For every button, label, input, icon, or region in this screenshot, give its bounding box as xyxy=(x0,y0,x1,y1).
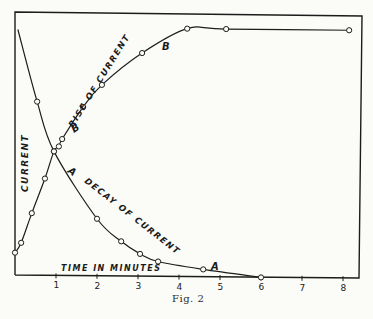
rise-b-upper: B xyxy=(162,41,171,52)
x-tick-label: 5 xyxy=(218,282,224,292)
data-point-marker xyxy=(29,211,34,216)
x-tick-label: 8 xyxy=(341,283,347,293)
x-tick-label: 4 xyxy=(177,282,183,292)
data-point-marker xyxy=(201,267,206,272)
data-point-marker xyxy=(258,275,263,280)
data-point-marker xyxy=(140,50,145,55)
data-point-marker xyxy=(224,26,229,31)
x-tick-label: 7 xyxy=(300,283,306,293)
rise-label: RISE OF CURRENT xyxy=(66,32,132,129)
data-point-marker xyxy=(12,250,17,255)
data-point-marker xyxy=(119,239,124,244)
x-tick-label: 1 xyxy=(54,280,60,290)
data-point-marker xyxy=(56,144,61,149)
decay-a-lower: A xyxy=(210,261,220,272)
x-axis-label: TIME IN MINUTES xyxy=(61,264,161,273)
y-axis-label: CURRENT xyxy=(20,134,30,192)
plot-frame xyxy=(15,12,362,278)
x-tick-label: 6 xyxy=(259,282,265,292)
rise-markers xyxy=(12,26,351,255)
data-point-marker xyxy=(94,216,99,221)
figure: 12345678 RISE OF CURRENT B B CURRENT A D… xyxy=(0,0,373,319)
data-point-marker xyxy=(19,240,24,245)
x-tick-label: 2 xyxy=(95,281,101,291)
figure-caption: Fig. 2 xyxy=(172,293,204,304)
data-point-marker xyxy=(137,251,142,256)
decay-a-upper: A xyxy=(65,164,80,179)
data-point-marker xyxy=(51,149,56,154)
x-tick-label: 3 xyxy=(136,281,142,291)
data-point-marker xyxy=(60,136,65,141)
data-point-marker xyxy=(35,99,40,104)
data-point-marker xyxy=(185,26,190,31)
data-point-marker xyxy=(42,176,47,181)
data-point-marker xyxy=(347,28,352,33)
